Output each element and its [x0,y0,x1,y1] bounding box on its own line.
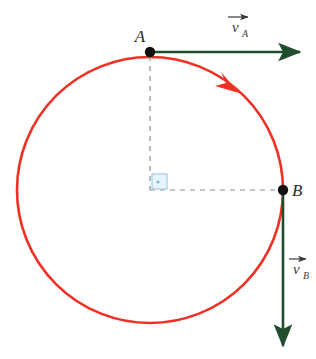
right-angle-marker [152,174,167,189]
physics-figure-canvas: A B v A v B [0,0,316,359]
velocity-vector-a-label: v A [228,17,249,39]
velocity-b-subscript: B [303,270,309,281]
circular-motion-diagram: A B v A v B [0,0,316,359]
point-b-label: B [292,181,303,200]
velocity-vector-b-label: v B [289,259,309,281]
velocity-a-subscript: A [241,28,249,39]
velocity-a-symbol: v [232,19,239,35]
point-a-marker [145,47,155,57]
point-b-marker [278,185,288,195]
velocity-b-symbol: v [293,261,300,277]
point-a-label: A [134,27,146,46]
